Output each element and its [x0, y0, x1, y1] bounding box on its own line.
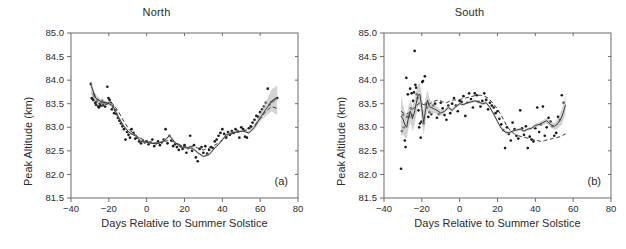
y-tick-label: 85.0 — [359, 27, 378, 38]
x-tick-label: 60 — [255, 203, 266, 214]
y-tick-label: 82.0 — [359, 169, 378, 180]
y-tick-label: 81.5 — [46, 192, 65, 203]
plot-area-south: 81.582.082.583.083.584.084.585.0−40−2002… — [313, 0, 626, 249]
y-tick-label: 83.5 — [46, 98, 65, 109]
x-tick-label: −20 — [101, 203, 117, 214]
y-tick-label: 82.0 — [46, 169, 65, 180]
model-line-dashed — [91, 98, 277, 150]
panel-north: North Peak Altitude (km) Days Relative t… — [0, 0, 313, 249]
axes-frame — [384, 33, 611, 198]
x-tick-label: 80 — [606, 203, 617, 214]
x-tick-label: −40 — [63, 203, 79, 214]
y-tick-label: 84.5 — [46, 51, 65, 62]
x-tick-label: 40 — [530, 203, 541, 214]
x-tick-label: 60 — [568, 203, 579, 214]
y-tick-label: 84.5 — [359, 51, 378, 62]
panel-tag: (a) — [275, 175, 288, 187]
y-tick-label: 83.5 — [359, 98, 378, 109]
scatter-points — [90, 83, 279, 163]
y-tick-label: 82.5 — [359, 145, 378, 156]
y-tick-label: 84.0 — [46, 74, 65, 85]
x-tick-label: 0 — [457, 203, 462, 214]
y-tick-label: 82.5 — [46, 145, 65, 156]
y-tick-label: 83.0 — [46, 121, 65, 132]
x-tick-label: 20 — [492, 203, 503, 214]
x-tick-label: 80 — [293, 203, 304, 214]
x-tick-label: −20 — [414, 203, 430, 214]
panel-tag: (b) — [588, 175, 601, 187]
x-tick-label: 0 — [144, 203, 149, 214]
y-tick-label: 83.0 — [359, 121, 378, 132]
x-tick-label: 20 — [179, 203, 190, 214]
plot-area-north: 81.582.082.583.083.584.084.585.0−40−2002… — [0, 0, 313, 249]
x-tick-label: 40 — [217, 203, 228, 214]
x-tick-label: −40 — [376, 203, 392, 214]
y-tick-label: 84.0 — [359, 74, 378, 85]
scatter-points — [400, 0, 567, 170]
panel-south: South Peak Altitude (km) Days Relative t… — [313, 0, 626, 249]
y-tick-label: 81.5 — [359, 192, 378, 203]
figure-root: North Peak Altitude (km) Days Relative t… — [0, 0, 626, 249]
y-tick-label: 85.0 — [46, 27, 65, 38]
